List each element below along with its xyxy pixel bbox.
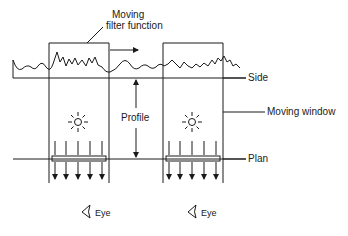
eye-label-right: Eye <box>201 208 217 218</box>
moving-window-right <box>163 43 223 183</box>
light-source-icon-left <box>68 112 88 132</box>
profile-label: Profile <box>121 112 150 123</box>
eye-icon-left <box>82 205 90 218</box>
eye-icon-right <box>188 205 196 218</box>
side-label: Side <box>248 72 268 83</box>
light-source-icon-right <box>182 112 202 132</box>
downward-arrows-left <box>55 141 102 179</box>
filter-function-label-line1: Moving <box>112 9 144 20</box>
profile-waveform <box>13 52 240 72</box>
downward-arrows-right <box>169 141 216 179</box>
diagram-canvas: Moving filter function Side Profile Movi… <box>0 0 348 236</box>
moving-window-diagram: Moving filter function Side Profile Movi… <box>0 0 348 236</box>
eye-label-left: Eye <box>95 208 111 218</box>
plan-label: Plan <box>248 153 268 164</box>
filter-leader-line <box>87 27 103 43</box>
filter-function-label-line2: filter function <box>106 20 163 31</box>
moving-window-label: Moving window <box>267 106 336 117</box>
